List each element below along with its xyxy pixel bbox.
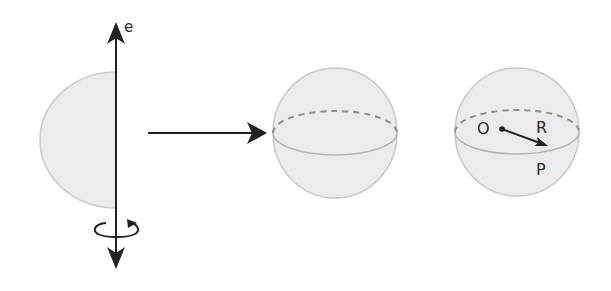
diagram-canvas: e O R P	[0, 0, 611, 291]
half-disc	[40, 72, 116, 208]
radius-label: R	[536, 118, 547, 137]
sphere-middle	[273, 68, 397, 198]
sphere-rotation-diagram: e O R P	[0, 0, 611, 291]
sphere-right: O R P	[455, 68, 579, 196]
axis-label: e	[124, 18, 133, 36]
center-label: O	[477, 119, 490, 138]
point-label: P	[536, 160, 546, 179]
transform-arrow	[148, 122, 267, 144]
